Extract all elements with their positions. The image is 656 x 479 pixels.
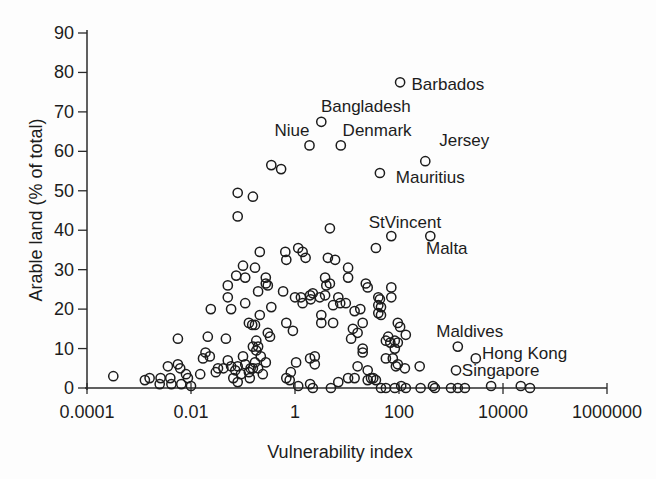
y-tick-label: 60 [54,141,74,161]
y-axis-title: Arable land (% of total) [26,118,47,301]
data-point [296,293,305,302]
y-tick-label: 40 [54,220,74,240]
data-point [387,293,396,302]
y-tick-label: 80 [54,62,74,82]
data-point [487,381,496,390]
data-point [250,263,259,272]
data-point [203,332,212,341]
data-point [421,157,430,166]
data-point [223,281,232,290]
y-tick-label: 50 [54,181,74,201]
data-point [288,326,297,335]
data-point [344,263,353,272]
data-point [317,117,326,126]
annotations-group: BarbadosBangladeshNiueDenmarkJerseyMauri… [274,75,567,380]
data-point [334,378,343,387]
country-label: Jersey [439,131,490,150]
data-point [258,370,267,379]
data-point [387,283,396,292]
country-label: Maldives [436,322,503,341]
x-tick-label: 1 [290,402,300,422]
data-point [282,318,291,327]
y-tick-label: 0 [64,378,74,398]
data-point [254,287,263,296]
data-point [451,366,460,375]
data-point [255,247,264,256]
x-tick-label: 1000000 [572,402,642,422]
data-point [233,188,242,197]
data-point [321,291,330,300]
country-label: Bangladesh [321,97,411,116]
data-point [173,334,182,343]
data-point [336,141,345,150]
data-point [223,293,232,302]
country-label: Malta [426,239,468,258]
data-point [279,287,288,296]
data-point [387,232,396,241]
y-tick-label: 20 [54,299,74,319]
y-tick-label: 90 [54,23,74,43]
points-group [109,78,535,393]
country-label: Denmark [343,121,412,140]
data-point [233,212,242,221]
data-point [358,318,367,327]
data-point [109,372,118,381]
data-point [329,318,338,327]
data-point [261,358,270,367]
country-label: Mauritius [396,168,465,187]
data-point [350,307,359,316]
data-point [396,78,405,87]
data-point [315,293,324,302]
data-point [292,358,301,367]
x-tick-label: 0.0001 [59,402,114,422]
data-point [227,305,236,314]
country-label: Hong Kong [482,344,567,363]
data-point [255,310,264,319]
data-point [350,374,359,383]
plot-svg: 0.00010.01110010000100000001020304050607… [0,0,656,479]
country-label: Niue [274,121,309,140]
data-point [401,330,410,339]
country-label: StVincent [369,213,442,232]
data-point [277,165,286,174]
data-point [267,303,276,312]
x-tick-label: 10000 [478,402,528,422]
data-point [206,305,215,314]
data-point [156,374,165,383]
y-tick-label: 70 [54,102,74,122]
data-point [347,334,356,343]
data-point [241,273,250,282]
data-point [344,273,353,282]
country-label: Barbados [412,75,485,94]
data-point [248,192,257,201]
data-point [453,342,462,351]
data-point [196,370,205,379]
data-point [325,224,334,233]
y-tick-label: 10 [54,339,74,359]
data-point [305,141,314,150]
x-tick-label: 100 [384,402,414,422]
data-point [232,271,241,280]
country-label: Singapore [462,361,540,380]
axes-group [85,30,607,390]
data-point [163,362,172,371]
data-point [415,362,424,371]
y-tick-label: 30 [54,260,74,280]
data-point [341,299,350,308]
x-tick-label: 0.01 [173,402,208,422]
data-point [400,364,409,373]
data-point [353,362,362,371]
x-axis-title: Vulnerability index [190,442,490,463]
data-point [241,299,250,308]
data-point [238,261,247,270]
data-point [375,168,384,177]
data-point [516,381,525,390]
data-point [371,243,380,252]
data-point [267,161,276,170]
scatter-figure: 0.00010.01110010000100000001020304050607… [0,0,656,479]
data-point [356,305,365,314]
data-point [245,374,254,383]
data-point [221,334,230,343]
